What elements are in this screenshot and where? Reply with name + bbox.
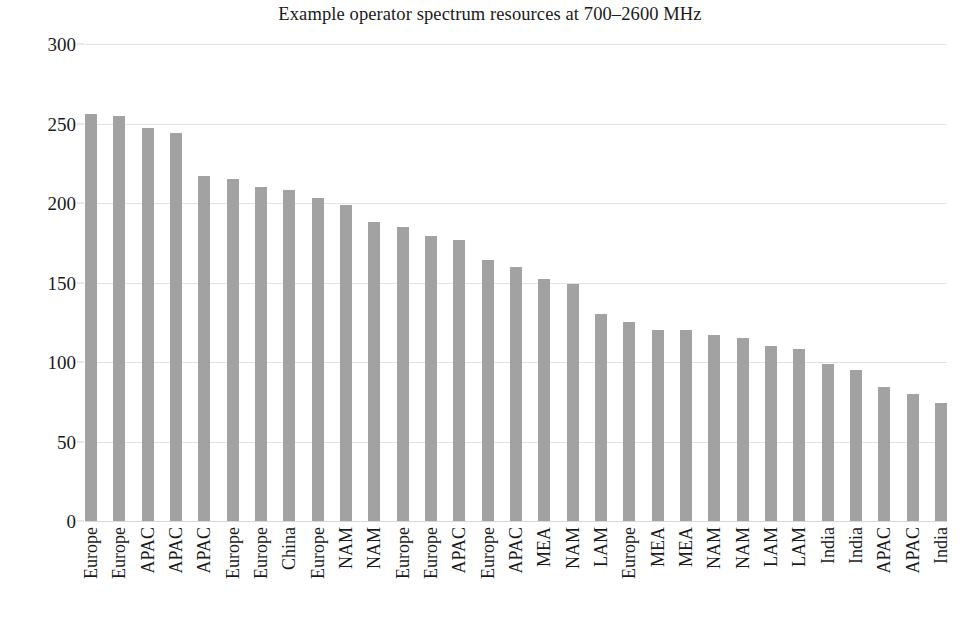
y-axis-tick-mark: [77, 441, 84, 442]
x-axis-category-label: Europe: [255, 527, 267, 627]
y-axis-tick-label: 300: [48, 35, 77, 54]
x-axis-category-label: APAC: [142, 527, 154, 627]
y-axis-tick-label: 250: [48, 114, 77, 133]
x-axis-category-label-text: India: [932, 527, 950, 564]
x-axis-category-label-text: LAM: [592, 527, 610, 567]
bar: [907, 394, 919, 521]
y-axis-tick-label: 150: [48, 273, 77, 292]
x-axis-category-label-text: NAM: [734, 527, 752, 569]
x-axis-category-label: Europe: [425, 527, 437, 627]
x-axis-category-label: APAC: [878, 527, 890, 627]
bar: [680, 330, 692, 521]
x-axis-category-label: MEA: [680, 527, 692, 627]
x-axis-category-label-text: Europe: [479, 527, 497, 579]
x-axis-category-label-text: APAC: [450, 527, 468, 573]
x-axis-category-label-text: Europe: [394, 527, 412, 579]
x-axis-category-label-text: India: [819, 527, 837, 564]
bar: [935, 403, 947, 521]
x-axis-category-label-text: MEA: [677, 527, 695, 567]
x-axis-category-label-text: APAC: [904, 527, 922, 573]
x-axis-category-label: APAC: [170, 527, 182, 627]
y-axis-tick-label: 200: [48, 194, 77, 213]
x-axis-category-label-text: Europe: [309, 527, 327, 579]
bar: [255, 187, 267, 521]
x-axis-category-labels: EuropeEuropeAPACAPACAPACEuropeEuropeChin…: [85, 521, 947, 630]
bar: [283, 190, 295, 521]
x-axis-category-label: Europe: [312, 527, 324, 627]
plot-area: 050100150200250300: [85, 44, 947, 521]
x-axis-category-label: NAM: [708, 527, 720, 627]
bar: [198, 176, 210, 521]
bar: [113, 116, 125, 521]
bar: [793, 349, 805, 521]
x-axis-category-label: India: [822, 527, 834, 627]
bar: [453, 240, 465, 521]
x-axis-category-label-text: LAM: [762, 527, 780, 567]
x-axis-category-label: India: [935, 527, 947, 627]
chart-title: Example operator spectrum resources at 7…: [0, 4, 980, 25]
x-axis-category-label-text: India: [847, 527, 865, 564]
x-axis-category-label-text: Europe: [82, 527, 100, 579]
y-axis-tick-label: 0: [67, 512, 77, 531]
bar: [142, 128, 154, 521]
bar: [737, 338, 749, 521]
x-axis-category-label-text: Europe: [110, 527, 128, 579]
bar: [425, 236, 437, 521]
y-axis-tick-mark: [77, 521, 84, 522]
bar: [878, 387, 890, 521]
x-axis-category-label-text: APAC: [195, 527, 213, 573]
bar: [482, 260, 494, 521]
y-axis-tick-mark: [77, 203, 84, 204]
x-axis-category-label-text: Europe: [620, 527, 638, 579]
x-axis-category-label-text: Europe: [224, 527, 242, 579]
bar: [227, 179, 239, 521]
x-axis-category-label: NAM: [340, 527, 352, 627]
x-axis-category-label-text: NAM: [365, 527, 383, 569]
y-axis-tick-label: 50: [57, 432, 76, 451]
x-axis-category-label-text: NAM: [705, 527, 723, 569]
y-axis-tick-mark: [77, 44, 84, 45]
x-axis-category-label-text: Europe: [422, 527, 440, 579]
bar: [538, 279, 550, 521]
bar: [85, 114, 97, 521]
x-axis-category-label-text: China: [280, 527, 298, 570]
y-axis-tick-mark: [77, 282, 84, 283]
bar: [850, 370, 862, 521]
bar: [652, 330, 664, 521]
x-axis-category-label-text: NAM: [564, 527, 582, 569]
x-axis-category-label: Europe: [397, 527, 409, 627]
bar: [312, 198, 324, 521]
x-axis-category-label: APAC: [453, 527, 465, 627]
x-axis-category-label: APAC: [907, 527, 919, 627]
x-axis-category-label: LAM: [793, 527, 805, 627]
bar: [397, 227, 409, 521]
x-axis-category-label: China: [283, 527, 295, 627]
x-axis-category-label: India: [850, 527, 862, 627]
x-axis-category-label: Europe: [227, 527, 239, 627]
y-axis-tick-label: 100: [48, 353, 77, 372]
x-axis-category-label: NAM: [368, 527, 380, 627]
bar: [170, 133, 182, 521]
x-axis-category-label-text: LAM: [790, 527, 808, 567]
x-axis-category-label: Europe: [113, 527, 125, 627]
bar: [368, 222, 380, 521]
bar: [595, 314, 607, 521]
x-axis-category-label-text: MEA: [535, 527, 553, 567]
bar: [708, 335, 720, 521]
x-axis-category-label-text: NAM: [337, 527, 355, 569]
x-axis-category-label: MEA: [538, 527, 550, 627]
x-axis-category-label: LAM: [595, 527, 607, 627]
x-axis-category-label-text: APAC: [167, 527, 185, 573]
y-axis-tick-mark: [77, 362, 84, 363]
bars-group: [85, 44, 947, 521]
bar: [623, 322, 635, 521]
bar-chart: Example operator spectrum resources at 7…: [0, 0, 980, 630]
x-axis-category-label-text: MEA: [649, 527, 667, 567]
y-axis-tick-mark: [77, 123, 84, 124]
bar: [510, 267, 522, 521]
x-axis-category-label: Europe: [85, 527, 97, 627]
x-axis-category-label: Europe: [482, 527, 494, 627]
x-axis-category-label-text: APAC: [139, 527, 157, 573]
x-axis-category-label: NAM: [567, 527, 579, 627]
x-axis-category-label: NAM: [737, 527, 749, 627]
